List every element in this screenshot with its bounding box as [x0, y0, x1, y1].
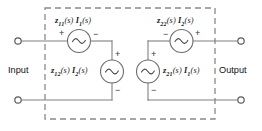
sign-z12-top: + — [115, 50, 120, 59]
sign-z22-left: − — [163, 30, 168, 39]
label-output-port: Output — [219, 66, 247, 75]
label-source-z22: z22(s) I2(s) — [157, 17, 194, 27]
sign-z12-bottom: − — [115, 86, 120, 95]
label-z21-mid: (s) — [173, 66, 184, 75]
label-z12-tail: (s) — [79, 66, 88, 75]
sign-z21-bottom: − — [151, 86, 156, 95]
label-source-z11: z11(s) I1(s) — [55, 17, 91, 27]
sign-z21-top: + — [151, 50, 156, 59]
terminal-input-top[interactable] — [15, 38, 21, 44]
label-z12-mid: (s) — [61, 66, 72, 75]
sign-z22-right: + — [195, 29, 200, 38]
label-z22-tail: (s) — [185, 16, 194, 25]
label-z21-tail: (s) — [191, 66, 200, 75]
terminal-output-top[interactable] — [238, 38, 244, 44]
label-z11-tail: (s) — [82, 16, 91, 25]
label-source-z12: z12(s) I2(s) — [51, 67, 88, 77]
label-source-z21: z21(s) I1(s) — [163, 67, 200, 77]
sign-z11-left: + — [59, 29, 64, 38]
circuit-diagram-canvas: z11(s) I1(s) z22(s) I2(s) z12(s) I2(s) z… — [0, 0, 262, 131]
terminal-output-bottom[interactable] — [238, 97, 244, 103]
sign-z11-right: − — [93, 30, 98, 39]
terminal-input-bottom[interactable] — [15, 97, 21, 103]
label-input-port: Input — [8, 66, 28, 75]
label-z11-mid: (s) — [64, 16, 75, 25]
label-z22-mid: (s) — [167, 16, 178, 25]
